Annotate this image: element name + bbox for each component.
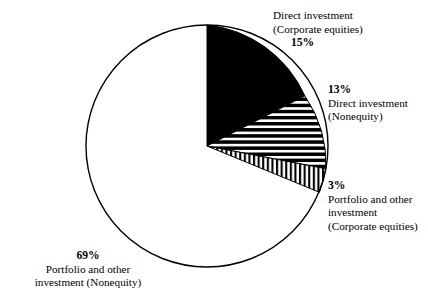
label-line-2: (Corporate equities) — [273, 23, 363, 37]
label-line-1: Portfolio and other — [12, 263, 164, 277]
slice-label-portfolio-other-corporate-equities: 3% Portfolio and other investment (Corpo… — [328, 179, 418, 233]
pie-chart-figure: Direct investment (Corporate equities) 1… — [0, 0, 428, 303]
slice-label-direct-investment-corporate-equities: Direct investment (Corporate equities) 1… — [273, 9, 363, 50]
label-line-1: Portfolio and other — [328, 193, 418, 207]
label-line-1: Direct investment — [328, 97, 408, 111]
slice-label-portfolio-other-nonequity: 69% Portfolio and other investment (None… — [12, 249, 164, 290]
label-percent-69: 69% — [12, 249, 164, 263]
label-percent-13: 13% — [328, 83, 408, 97]
label-line-2: investment — [328, 206, 418, 220]
label-line-1: Direct investment — [273, 9, 363, 23]
label-line-2: (Nonequity) — [328, 110, 408, 124]
label-line-3: (Corporate equities) — [328, 220, 418, 234]
slice-label-direct-investment-nonequity: 13% Direct investment (Nonequity) — [328, 83, 408, 124]
label-percent-15: 15% — [273, 36, 363, 50]
label-percent-3: 3% — [328, 179, 418, 193]
label-line-2: investment (Nonequity) — [12, 276, 164, 290]
